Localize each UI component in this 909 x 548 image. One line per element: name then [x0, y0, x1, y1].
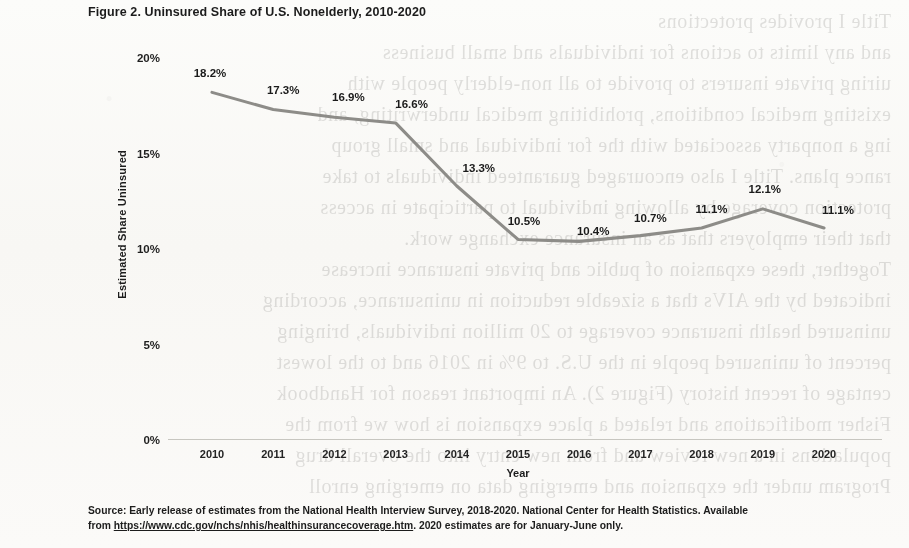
x-axis-tick-label: 2012 — [322, 448, 346, 460]
data-point-value-label: 11.1% — [696, 203, 728, 215]
data-point-value-label: 13.3% — [462, 162, 495, 174]
y-axis-tick-label: 5% — [143, 339, 160, 351]
scanned-figure-page: Title I provides protectionsand any limi… — [0, 0, 909, 548]
data-point-value-label: 11.1% — [822, 204, 854, 216]
source-line-2: from https://www.cdc.gov/nchs/nhis/healt… — [88, 518, 900, 533]
source-note: Source: Early release of estimates from … — [88, 503, 900, 533]
data-point-value-label: 16.9% — [332, 91, 365, 103]
data-point-value-label: 18.2% — [194, 67, 227, 79]
x-axis-title: Year — [506, 467, 529, 479]
figure-title: Figure 2. Uninsured Share of U.S. Noneld… — [88, 5, 426, 19]
source-line-2-suffix: . 2020 estimates are for January-June on… — [413, 520, 623, 531]
x-axis-tick-label: 2019 — [751, 448, 775, 460]
x-axis-tick-label: 2014 — [445, 448, 469, 460]
x-axis-tick-label: 2015 — [506, 448, 530, 460]
x-axis-tick-label: 2013 — [383, 448, 407, 460]
y-axis-tick-label: 10% — [137, 243, 160, 255]
data-point-value-label: 17.3% — [267, 84, 300, 96]
chart-plot-area: 0%5%10%15%20% 20102011201220132014201520… — [168, 58, 868, 440]
source-url-link[interactable]: https://www.cdc.gov/nchs/nhis/healthinsu… — [114, 520, 413, 531]
data-point-value-label: 16.6% — [395, 98, 428, 110]
y-axis-tick-label: 20% — [137, 52, 160, 64]
x-axis-tick-label: 2016 — [567, 448, 591, 460]
bleed-through-line: Program under the expansion and emerging… — [308, 471, 891, 502]
y-axis-tick-label: 0% — [143, 434, 160, 446]
source-line-2-prefix: from — [88, 520, 114, 531]
y-axis-tick-label: 15% — [137, 148, 160, 160]
bleed-through-line: Title I provides protections — [658, 6, 891, 37]
data-point-value-label: 10.5% — [508, 215, 541, 227]
source-line-1: Source: Early release of estimates from … — [88, 503, 900, 518]
x-axis-tick-label: 2020 — [812, 448, 836, 460]
x-axis-tick-label: 2010 — [200, 448, 224, 460]
data-point-value-label: 12.1% — [748, 183, 781, 195]
y-axis-title: Estimated Share Uninsured — [116, 150, 128, 299]
x-axis-tick-label: 2017 — [628, 448, 652, 460]
data-point-value-label: 10.4% — [577, 225, 610, 237]
x-axis-tick-label: 2018 — [689, 448, 713, 460]
uninsured-share-line-series — [168, 58, 868, 440]
x-axis-tick-label: 2011 — [261, 448, 285, 460]
data-point-value-label: 10.7% — [634, 212, 667, 224]
